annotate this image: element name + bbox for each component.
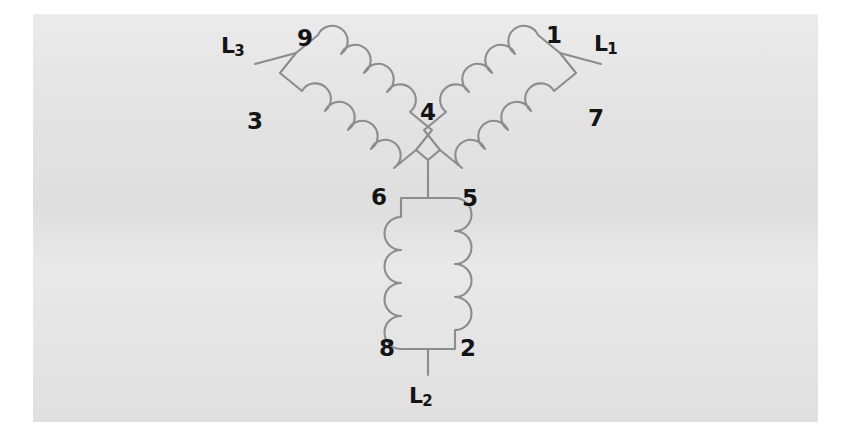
terminal-label-L3: L3 bbox=[221, 35, 245, 57]
terminal-label-L1-text: L bbox=[594, 31, 608, 56]
node-label-9: 9 bbox=[297, 27, 313, 50]
node-label-5: 5 bbox=[462, 187, 478, 210]
terminal-label-L2-sub: 2 bbox=[422, 392, 432, 410]
node-label-2: 2 bbox=[460, 337, 476, 360]
node-label-6: 6 bbox=[371, 186, 387, 209]
node-label-7: 7 bbox=[588, 107, 604, 130]
node-label-8: 8 bbox=[379, 337, 395, 360]
diagram-panel bbox=[33, 14, 818, 422]
terminal-label-L3-text: L bbox=[221, 33, 235, 58]
terminal-label-L1-sub: 1 bbox=[607, 40, 617, 58]
node-label-4: 4 bbox=[420, 101, 436, 124]
terminal-label-L3-sub: 3 bbox=[234, 42, 244, 60]
figure-root: 1 7 4 9 3 6 5 8 2 L1 L2 L3 bbox=[0, 0, 843, 446]
terminal-label-L1: L1 bbox=[594, 33, 618, 55]
node-label-1: 1 bbox=[546, 24, 562, 47]
node-label-3: 3 bbox=[247, 110, 263, 133]
terminal-label-L2: L2 bbox=[409, 385, 433, 407]
terminal-label-L2-text: L bbox=[409, 383, 423, 408]
